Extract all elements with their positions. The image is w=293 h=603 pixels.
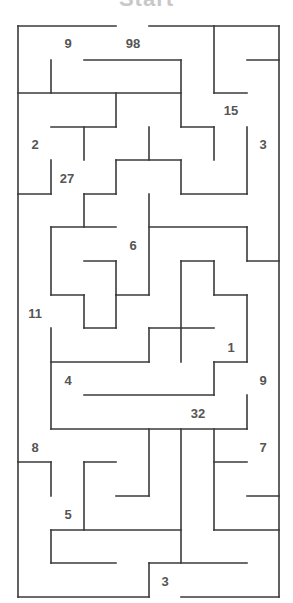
cell-number-label: 3 bbox=[161, 574, 168, 589]
cell-number-label: 2 bbox=[31, 137, 38, 152]
cell-number-label: 9 bbox=[259, 373, 266, 388]
cell-number-label: 98 bbox=[126, 36, 140, 51]
cell-number-label: 27 bbox=[60, 171, 74, 186]
maze-walls bbox=[0, 0, 293, 603]
cell-number-label: 8 bbox=[31, 440, 38, 455]
cell-number-label: 11 bbox=[28, 306, 42, 321]
cell-number-label: 3 bbox=[259, 137, 266, 152]
cell-number-label: 6 bbox=[129, 238, 136, 253]
cell-number-label: 15 bbox=[224, 103, 238, 118]
cell-number-label: 1 bbox=[227, 340, 234, 355]
cell-number-label: 4 bbox=[64, 373, 71, 388]
cell-number-label: 9 bbox=[64, 36, 71, 51]
cell-number-label: 5 bbox=[64, 507, 71, 522]
cell-number-label: 7 bbox=[259, 440, 266, 455]
cell-number-label: 32 bbox=[191, 406, 205, 421]
